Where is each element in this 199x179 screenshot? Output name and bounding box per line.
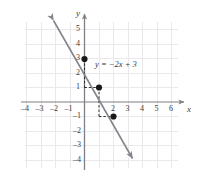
y-tick-neg2: –2 xyxy=(73,127,81,135)
equation-label: y = −2x + 3 xyxy=(95,60,137,69)
graph-line xyxy=(54,21,133,159)
axes xyxy=(21,14,184,170)
y-tick-2: 2 xyxy=(76,69,80,77)
point-0-3 xyxy=(81,56,87,62)
y-axis-label: y xyxy=(76,9,80,18)
x-tick-2: 2 xyxy=(111,105,115,113)
y-tick-4: 4 xyxy=(76,40,80,48)
y-tick-neg4: –4 xyxy=(73,156,81,164)
y-tick-3: 3 xyxy=(76,54,80,62)
grid-lines xyxy=(25,22,178,168)
y-tick-1: 1 xyxy=(76,83,80,91)
point-2-neg1 xyxy=(110,113,116,119)
x-tick-neg4: –4 xyxy=(21,105,29,113)
x-tick-3: 3 xyxy=(126,105,130,113)
point-1-1 xyxy=(96,84,102,90)
x-tick-4: 4 xyxy=(140,105,144,113)
graph-figure: y = −2x + 3 y x –4 –3 –2 –1 2 3 4 5 6 5 … xyxy=(0,0,199,179)
x-tick-5: 5 xyxy=(155,105,159,113)
y-tick-5: 5 xyxy=(76,25,80,33)
x-axis-label: x xyxy=(187,105,191,114)
x-tick-neg2: –2 xyxy=(50,105,58,113)
y-tick-neg1: –1 xyxy=(73,112,81,120)
y-tick-neg3: –3 xyxy=(73,141,81,149)
x-tick-6: 6 xyxy=(169,105,173,113)
x-tick-neg1: –1 xyxy=(65,105,73,113)
coordinate-plane-svg xyxy=(0,0,199,179)
x-tick-neg3: –3 xyxy=(36,105,44,113)
